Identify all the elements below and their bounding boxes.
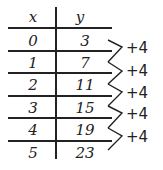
difference-label: +4 bbox=[126, 85, 148, 101]
difference-label: +4 bbox=[126, 63, 148, 79]
difference-label: +4 bbox=[126, 129, 148, 145]
difference-label: +4 bbox=[126, 106, 148, 122]
difference-label: +4 bbox=[126, 40, 148, 56]
